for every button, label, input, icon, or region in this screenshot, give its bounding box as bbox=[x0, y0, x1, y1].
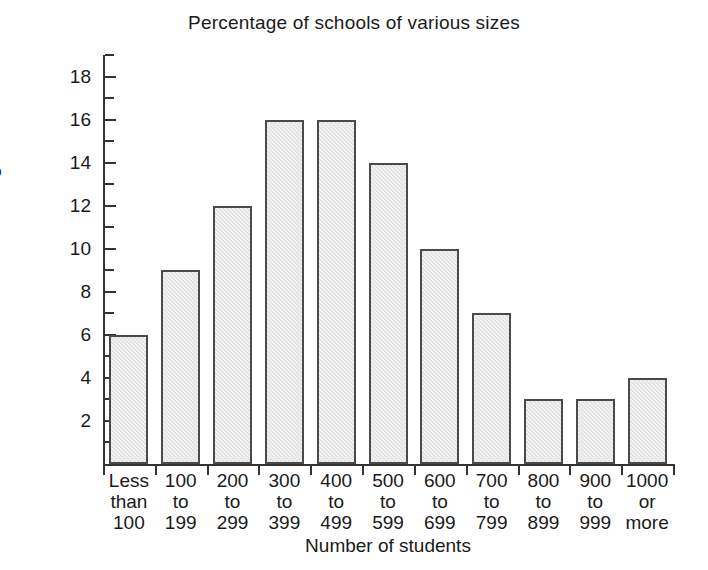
x-axis-category-label: 100to199 bbox=[155, 470, 207, 533]
x-axis-category-line: to bbox=[518, 491, 570, 512]
bar-chart-figure: Percentage of schools of various sizes P… bbox=[0, 0, 708, 570]
y-axis-tick-label: 2 bbox=[51, 411, 91, 430]
x-axis-category-label: 900to999 bbox=[569, 470, 621, 533]
y-axis-tick-minor bbox=[105, 97, 114, 99]
x-axis-category-line: to bbox=[155, 491, 207, 512]
y-axis-tick-minor bbox=[105, 183, 114, 185]
x-axis-category-line: 699 bbox=[414, 512, 466, 533]
y-axis-tick-major bbox=[105, 76, 116, 78]
x-axis-category-line: 100 bbox=[103, 512, 155, 533]
bar bbox=[213, 206, 252, 464]
x-axis-category-line: 1000 bbox=[621, 470, 673, 491]
x-axis-category-line: more bbox=[621, 512, 673, 533]
bar bbox=[369, 163, 408, 464]
x-axis-category-label: 200to299 bbox=[207, 470, 259, 533]
y-axis-tick-label: 4 bbox=[51, 368, 91, 387]
bar bbox=[524, 399, 563, 464]
x-axis-line bbox=[103, 464, 675, 466]
chart-title: Percentage of schools of various sizes bbox=[0, 12, 708, 34]
x-axis-category-line: 199 bbox=[155, 512, 207, 533]
y-axis-tick-minor bbox=[105, 226, 114, 228]
y-axis-title: Percentage bbox=[0, 117, 2, 297]
x-axis-category-label: 600to699 bbox=[414, 470, 466, 533]
bar bbox=[265, 120, 304, 464]
plot-area: 24681012141618 bbox=[103, 55, 673, 465]
x-axis-category-label: 700to799 bbox=[466, 470, 518, 533]
x-axis-category-line: 200 bbox=[207, 470, 259, 491]
y-axis-tick-label: 12 bbox=[51, 196, 91, 215]
x-axis-category-line: to bbox=[362, 491, 414, 512]
y-axis-tick-label: 14 bbox=[51, 153, 91, 172]
y-axis-tick-label: 16 bbox=[51, 110, 91, 129]
x-axis-category-line: to bbox=[466, 491, 518, 512]
x-axis-category-line: to bbox=[414, 491, 466, 512]
bar bbox=[576, 399, 615, 464]
x-axis-category-labels: Lessthan100100to199200to299300to399400to… bbox=[103, 470, 673, 532]
y-axis-tick-minor bbox=[105, 312, 114, 314]
x-axis-category-line: Less bbox=[103, 470, 155, 491]
bar bbox=[161, 270, 200, 464]
x-axis-category-line: to bbox=[207, 491, 259, 512]
x-axis-category-line: 499 bbox=[310, 512, 362, 533]
y-axis-tick-major bbox=[105, 248, 116, 250]
x-axis-category-line: to bbox=[310, 491, 362, 512]
y-axis-tick-minor bbox=[105, 140, 114, 142]
y-axis-tick-major bbox=[105, 119, 116, 121]
x-axis-category-line: 700 bbox=[466, 470, 518, 491]
bar bbox=[317, 120, 356, 464]
bar bbox=[420, 249, 459, 464]
x-axis-category-line: 399 bbox=[258, 512, 310, 533]
y-axis-tick-label: 10 bbox=[51, 239, 91, 258]
x-axis-category-line: 599 bbox=[362, 512, 414, 533]
bar bbox=[109, 335, 148, 464]
x-axis-category-label: 800to899 bbox=[518, 470, 570, 533]
x-axis-category-line: to bbox=[258, 491, 310, 512]
y-axis-tick-major bbox=[105, 205, 116, 207]
y-axis-tick-minor bbox=[105, 269, 114, 271]
x-axis-category-line: 600 bbox=[414, 470, 466, 491]
x-axis-category-line: 400 bbox=[310, 470, 362, 491]
x-axis-category-line: 900 bbox=[569, 470, 621, 491]
x-axis-category-line: 899 bbox=[518, 512, 570, 533]
x-axis-category-line: 100 bbox=[155, 470, 207, 491]
x-axis-category-line: 300 bbox=[258, 470, 310, 491]
y-axis-tick-label: 18 bbox=[51, 67, 91, 86]
x-axis-category-label: 400to499 bbox=[310, 470, 362, 533]
y-axis-tick-major bbox=[105, 162, 116, 164]
y-axis-line bbox=[103, 55, 105, 466]
x-axis-category-line: 800 bbox=[518, 470, 570, 491]
x-axis-category-label: 1000ormore bbox=[621, 470, 673, 533]
y-axis-tick-label: 6 bbox=[51, 325, 91, 344]
x-axis-category-line: to bbox=[569, 491, 621, 512]
x-axis-category-line: 999 bbox=[569, 512, 621, 533]
y-axis-tick-minor bbox=[105, 54, 114, 56]
x-axis-category-line: 799 bbox=[466, 512, 518, 533]
x-axis-title: Number of students bbox=[103, 535, 673, 557]
x-axis-category-line: 299 bbox=[207, 512, 259, 533]
x-axis-category-label: Lessthan100 bbox=[103, 470, 155, 533]
x-axis-category-label: 300to399 bbox=[258, 470, 310, 533]
x-axis-category-line: than bbox=[103, 491, 155, 512]
x-axis-category-line: 500 bbox=[362, 470, 414, 491]
x-axis-category-label: 500to599 bbox=[362, 470, 414, 533]
x-axis-tick bbox=[673, 466, 675, 475]
bar bbox=[628, 378, 667, 464]
y-axis-tick-major bbox=[105, 291, 116, 293]
y-axis-tick-label: 8 bbox=[51, 282, 91, 301]
bar bbox=[472, 313, 511, 464]
x-axis-category-line: or bbox=[621, 491, 673, 512]
